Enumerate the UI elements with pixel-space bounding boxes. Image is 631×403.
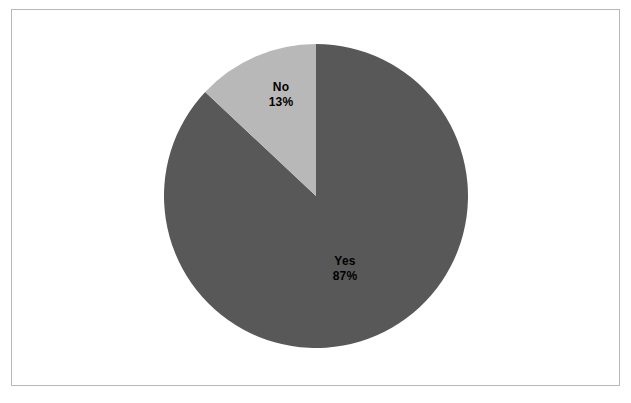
pie-label-yes-name: Yes [315,254,375,269]
pie-label-yes-value: 87% [315,269,375,284]
pie-label-no-value: 13% [251,95,311,110]
pie-label-no-name: No [251,80,311,95]
pie-label-yes: Yes 87% [315,254,375,284]
pie-label-no: No 13% [251,80,311,110]
pie-chart: No 13% Yes 87% [0,0,631,403]
pie-chart-svg [0,0,631,403]
figure-canvas: No 13% Yes 87% [0,0,631,403]
